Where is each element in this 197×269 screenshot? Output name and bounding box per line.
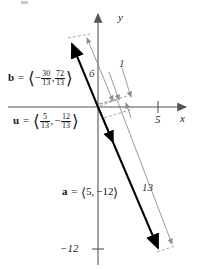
y-axis-label: y bbox=[118, 12, 123, 23]
diagram-canvas bbox=[0, 0, 197, 269]
vector-b-minus: − bbox=[35, 71, 41, 83]
vector-a-close-angle: ⟩ bbox=[113, 185, 118, 200]
vector-a-label: a=⟨5,−12⟩ bbox=[62, 186, 118, 199]
vector-b-label: b=⟨−3013,7213⟩ bbox=[8, 70, 73, 88]
vector-u-arrow bbox=[98, 107, 113, 142]
y-tick-label-minus12: −12 bbox=[60, 243, 78, 254]
vector-a-equals: = bbox=[71, 185, 78, 197]
vector-u-x-denominator: 13 bbox=[40, 122, 50, 130]
measurement-u bbox=[100, 68, 133, 118]
vector-a-name: a bbox=[62, 185, 68, 197]
vector-u-y-denominator: 13 bbox=[61, 122, 71, 130]
measurement-label-a: 13 bbox=[142, 182, 153, 193]
measurement-a bbox=[100, 99, 175, 252]
vector-b-y-denominator: 13 bbox=[55, 79, 65, 87]
vector-diagram-figure: y x 5 −12 6 1 13 b=⟨−3013,7213⟩ u=⟨513,−… bbox=[0, 0, 197, 269]
x-axis-label: x bbox=[180, 113, 185, 124]
vector-u-minus: − bbox=[54, 114, 60, 126]
vector-b-x-denominator: 13 bbox=[41, 79, 51, 87]
vector-b-equals: = bbox=[17, 71, 24, 83]
vector-a-y-value: 12 bbox=[102, 185, 113, 197]
vector-u-close-angle: ⟩ bbox=[72, 112, 79, 131]
measurement-label-b: 6 bbox=[89, 68, 95, 79]
x-tick-label-5: 5 bbox=[155, 114, 161, 125]
vector-u-label: u=⟨513,−1213⟩ bbox=[13, 113, 79, 131]
vector-u-name: u bbox=[13, 114, 19, 126]
vector-u-y-fraction: 1213 bbox=[61, 113, 71, 131]
vector-b-x-fraction: 3013 bbox=[41, 70, 51, 88]
vector-b-close-angle: ⟩ bbox=[66, 69, 73, 88]
vector-b-name: b bbox=[8, 71, 14, 83]
vector-b-y-fraction: 7213 bbox=[55, 70, 65, 88]
vector-b-open-angle: ⟨ bbox=[28, 69, 35, 88]
measurement-label-u: 1 bbox=[119, 58, 125, 69]
y-axis bbox=[92, 14, 104, 265]
vector-a-comma: , bbox=[91, 185, 94, 197]
vector-u-comma: , bbox=[51, 114, 54, 126]
vector-u-x-fraction: 513 bbox=[40, 113, 50, 131]
vector-u-equals: = bbox=[22, 114, 29, 126]
vector-u-open-angle: ⟨ bbox=[33, 112, 40, 131]
